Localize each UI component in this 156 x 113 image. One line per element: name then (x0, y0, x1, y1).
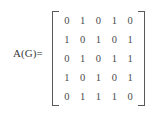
matrix-cell: 1 (59, 30, 75, 49)
matrix-cell: 0 (75, 68, 91, 87)
matrix-cell: 0 (59, 11, 75, 30)
right-bracket-icon (138, 11, 145, 106)
matrix-grid: 0 1 0 1 0 1 0 1 0 1 0 1 0 1 1 1 0 1 0 1 … (59, 11, 138, 106)
matrix-cell: 1 (106, 87, 122, 106)
matrix-cell: 0 (59, 49, 75, 68)
matrix-cell: 1 (91, 87, 107, 106)
matrix-label: A(G)= (13, 47, 43, 60)
matrix-cell: 1 (106, 11, 122, 30)
matrix-cell: 1 (75, 11, 91, 30)
matrix-cell: 0 (106, 30, 122, 49)
matrix-cell: 1 (122, 68, 138, 87)
matrix-cell: 1 (91, 30, 107, 49)
matrix-cell: 1 (59, 68, 75, 87)
matrix-cell: 1 (106, 49, 122, 68)
matrix-cell: 1 (75, 49, 91, 68)
left-bracket-icon (52, 11, 59, 106)
matrix-cell: 1 (91, 68, 107, 87)
matrix-cell: 0 (106, 68, 122, 87)
matrix-cell: 1 (122, 30, 138, 49)
matrix-cell: 1 (122, 49, 138, 68)
matrix-container: 0 1 0 1 0 1 0 1 0 1 0 1 0 1 1 1 0 1 0 1 … (52, 11, 145, 106)
matrix-cell: 1 (75, 87, 91, 106)
matrix-cell: 0 (91, 11, 107, 30)
matrix-cell: 0 (75, 30, 91, 49)
matrix-cell: 0 (59, 87, 75, 106)
matrix-cell: 0 (91, 49, 107, 68)
matrix-cell: 0 (122, 87, 138, 106)
adjacency-matrix-equation: A(G)= 0 1 0 1 0 1 0 1 0 1 0 1 0 1 1 1 0 … (0, 0, 156, 113)
matrix-cell: 0 (122, 11, 138, 30)
